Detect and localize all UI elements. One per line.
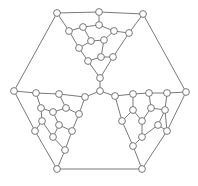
graph-node xyxy=(130,91,137,98)
graph-node xyxy=(98,54,105,61)
graph-node xyxy=(101,37,108,44)
graph-node xyxy=(110,54,117,61)
graph-edge xyxy=(115,96,122,121)
graph-edge xyxy=(122,121,133,146)
graph-node xyxy=(96,9,103,16)
graph-node xyxy=(119,118,126,125)
graph-node xyxy=(97,88,104,95)
graph-node xyxy=(162,107,169,114)
graph-node xyxy=(140,11,147,18)
graph-edge xyxy=(167,92,186,131)
graph-node xyxy=(76,45,83,52)
graph-node xyxy=(139,118,146,125)
graph-node xyxy=(11,88,18,95)
graph-node xyxy=(38,105,45,112)
graph-edge xyxy=(99,12,143,14)
graph-node xyxy=(112,93,119,100)
graph-node xyxy=(183,89,190,96)
graph-node xyxy=(33,90,40,97)
graph-node xyxy=(63,105,70,112)
graph-node xyxy=(130,107,137,114)
graph-edge xyxy=(59,94,85,97)
graph-node xyxy=(111,28,118,35)
graph-node xyxy=(66,28,73,35)
graph-node xyxy=(82,94,89,101)
graph-node xyxy=(85,58,92,65)
graph-node xyxy=(56,91,63,98)
graph-node xyxy=(139,166,146,173)
graph-node xyxy=(97,75,104,82)
graph-node xyxy=(148,105,155,112)
graph-node xyxy=(39,118,46,125)
graph-node xyxy=(155,122,162,129)
graph-node xyxy=(96,22,103,29)
graph-node xyxy=(146,90,153,97)
graph-node xyxy=(62,147,69,154)
graph-node xyxy=(50,134,57,141)
graph-edge xyxy=(14,91,35,131)
graph-node xyxy=(50,109,57,116)
graph-node xyxy=(54,166,61,173)
graph-node xyxy=(139,134,146,141)
graph-edge xyxy=(113,33,129,57)
graph-edge xyxy=(143,14,186,92)
graph-node xyxy=(80,24,87,31)
graph-node xyxy=(76,111,83,118)
graph-node xyxy=(130,143,137,150)
graph-node xyxy=(32,128,39,135)
graph-node xyxy=(164,90,171,97)
node-layer xyxy=(11,9,190,173)
graph-edge xyxy=(14,13,57,91)
graph-node xyxy=(88,38,95,45)
graph-edge xyxy=(57,12,99,13)
graph-node xyxy=(164,128,171,135)
graph-node xyxy=(69,128,76,135)
graph-diagram xyxy=(0,0,198,186)
graph-node xyxy=(126,30,133,37)
graph-node xyxy=(54,10,61,17)
graph-node xyxy=(56,122,63,129)
